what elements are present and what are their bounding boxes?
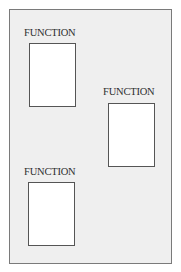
function-box-2 (108, 103, 155, 167)
function-box-3 (28, 182, 75, 246)
function-label-2: FUNCTION (103, 86, 155, 97)
function-label-3: FUNCTION (24, 166, 76, 177)
function-label-1: FUNCTION (24, 27, 76, 38)
function-box-1 (29, 43, 76, 107)
